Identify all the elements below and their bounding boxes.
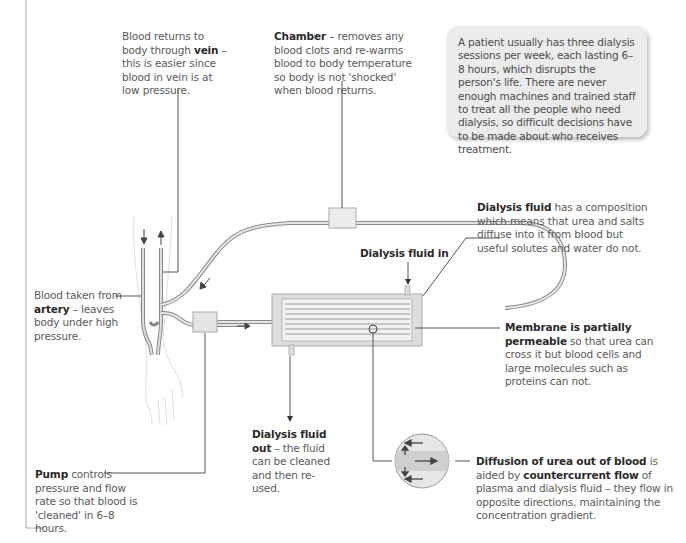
diffusion-label: Diffusion of urea out of blood is aided … [476,455,681,523]
dialysis-fluid-out-label: Dialysis fluid out – the fluid can be cl… [252,428,332,496]
dialysis-fluid-label: Dialysis fluid has a composition which m… [477,201,652,255]
pump-box [193,312,217,332]
vein-label: Blood returns to body through vein – thi… [122,30,232,98]
pump-label: Pump controls pressure and flow rate so … [35,468,140,536]
info-note-box: A patient usually has three dialysis ses… [447,26,647,137]
magnified-membrane-circle [395,434,449,488]
note-text: A patient usually has three dialysis ses… [458,36,636,155]
dialyser [272,286,422,355]
chamber-box [329,208,356,228]
membrane-label: Membrane is partially permeable so that … [505,321,670,389]
artery-label: Blood taken from artery – leaves body un… [34,289,124,343]
chamber-label: Chamber – removes any blood clots and re… [274,30,424,98]
dialysis-fluid-in-label: Dialysis fluid in [360,247,449,261]
leader-lines [104,81,500,473]
